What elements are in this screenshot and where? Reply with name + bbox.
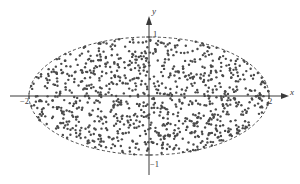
scatter-point [219, 86, 221, 88]
scatter-point [121, 118, 123, 120]
scatter-point [164, 92, 166, 94]
scatter-point [44, 85, 46, 87]
scatter-point [81, 107, 83, 109]
scatter-point [54, 95, 56, 97]
scatter-point [124, 77, 126, 79]
scatter-point [51, 117, 53, 119]
scatter-point [166, 123, 168, 125]
scatter-point [124, 67, 126, 69]
scatter-point [189, 150, 191, 152]
scatter-point [56, 77, 58, 79]
scatter-point [264, 86, 266, 88]
scatter-point [244, 109, 246, 111]
scatter-point [227, 127, 229, 129]
scatter-point [125, 82, 127, 84]
scatter-point [222, 110, 224, 112]
scatter-point [220, 95, 222, 97]
scatter-point [47, 73, 49, 75]
scatter-point [211, 132, 213, 134]
scatter-point [218, 139, 220, 141]
scatter-point [180, 52, 182, 54]
scatter-point [239, 65, 241, 67]
scatter-point [214, 133, 216, 135]
scatter-point [109, 66, 111, 68]
scatter-point [124, 45, 126, 47]
scatter-point [157, 40, 159, 42]
x-axis-label: x [290, 88, 294, 97]
scatter-point [77, 84, 79, 86]
scatter-point [46, 95, 48, 97]
scatter-point [63, 99, 65, 101]
scatter-point [222, 55, 224, 57]
scatter-point [173, 74, 175, 76]
scatter-point [174, 80, 176, 82]
scatter-point [142, 105, 144, 107]
scatter-point [200, 142, 202, 144]
scatter-point [138, 125, 140, 127]
scatter-point [136, 59, 138, 61]
scatter-point [101, 75, 103, 77]
scatter-point [93, 120, 95, 122]
scatter-point [116, 70, 118, 72]
scatter-point [112, 82, 114, 84]
scatter-point [66, 73, 68, 75]
scatter-point [208, 47, 210, 49]
y-tick-label-pos1: 1 [153, 30, 157, 39]
scatter-point [163, 68, 165, 70]
scatter-point [36, 107, 38, 109]
scatter-point [32, 83, 34, 85]
scatter-point [237, 103, 239, 105]
scatter-point [94, 146, 96, 148]
scatter-point [218, 82, 220, 84]
scatter-point [253, 74, 255, 76]
scatter-point [178, 120, 180, 122]
scatter-point [97, 42, 99, 44]
scatter-point [81, 52, 83, 54]
scatter-point [90, 134, 92, 136]
scatter-point [126, 115, 128, 117]
scatter-point [94, 73, 96, 75]
scatter-point [223, 107, 225, 109]
scatter-point [161, 124, 163, 126]
scatter-point [86, 71, 88, 73]
scatter-point [156, 107, 158, 109]
scatter-point [166, 143, 168, 145]
scatter-point [242, 74, 244, 76]
scatter-point [147, 94, 149, 96]
scatter-point [244, 120, 246, 122]
scatter-point [86, 101, 88, 103]
scatter-point [163, 137, 165, 139]
scatter-point [84, 136, 86, 138]
scatter-point [90, 71, 92, 73]
scatter-point [136, 115, 138, 117]
scatter-point [194, 136, 196, 138]
scatter-point [212, 59, 214, 61]
scatter-point [242, 127, 244, 129]
scatter-point [114, 145, 116, 147]
scatter-point [239, 78, 241, 80]
scatter-point [217, 114, 219, 116]
scatter-point [262, 81, 264, 83]
scatter-point [120, 115, 122, 117]
scatter-point [141, 58, 143, 60]
scatter-point [161, 42, 163, 44]
scatter-point [129, 150, 131, 152]
scatter-point [180, 93, 182, 95]
scatter-point [216, 130, 218, 132]
scatter-point [89, 76, 91, 78]
scatter-point [65, 88, 67, 90]
scatter-point [183, 52, 185, 54]
scatter-point [88, 113, 90, 115]
scatter-point [69, 129, 71, 131]
scatter-point [127, 121, 129, 123]
scatter-point [84, 127, 86, 129]
scatter-point [131, 56, 133, 58]
scatter-point [129, 124, 131, 126]
scatter-point [75, 58, 77, 60]
scatter-point [30, 105, 32, 107]
scatter-point [159, 92, 161, 94]
scatter-plot-figure: y x −2 2 1 −1 [0, 0, 300, 184]
scatter-point [55, 65, 57, 67]
scatter-point [148, 61, 150, 63]
scatter-point [236, 58, 238, 60]
